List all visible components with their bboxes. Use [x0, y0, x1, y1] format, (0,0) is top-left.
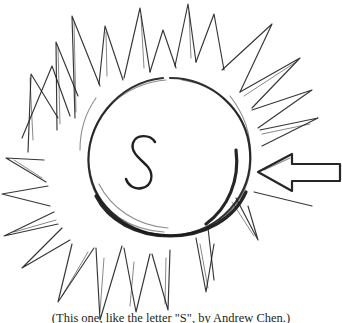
sketch-figure: (This one, like the letter "S", by Andre…: [0, 0, 342, 323]
sun-disc-outline: [80, 78, 251, 236]
pointer-arrow: [258, 154, 340, 191]
center-letter-s: [126, 136, 155, 188]
figure-caption: (This one, like the letter "S", by Andre…: [0, 311, 342, 323]
sun-sketch-canvas: [0, 0, 342, 323]
sun-rays-group: [2, 4, 318, 320]
